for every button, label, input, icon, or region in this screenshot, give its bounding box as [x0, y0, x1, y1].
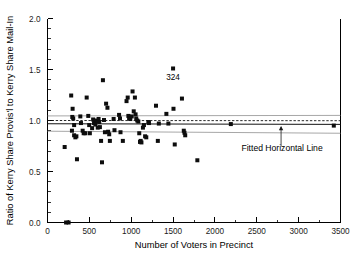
data-point	[70, 129, 74, 133]
data-point	[195, 158, 199, 162]
x-tick-label: 2000	[206, 227, 225, 236]
data-point	[88, 131, 92, 135]
data-point	[104, 102, 108, 106]
data-point	[101, 78, 105, 82]
data-point	[173, 142, 177, 146]
data-point	[108, 139, 112, 143]
x-tick-label: 1000	[122, 227, 141, 236]
data-point	[63, 145, 67, 149]
axes-group: 0.00.51.01.52.00500100015002000250030003…	[29, 15, 350, 236]
data-point	[98, 125, 102, 129]
data-point	[100, 160, 104, 164]
y-axis-title: Ratio of Kerry Share Provis'l to Kerry S…	[5, 16, 15, 225]
y-tick-label: 1.0	[29, 117, 41, 126]
data-point	[78, 114, 82, 118]
data-point	[136, 120, 140, 124]
data-point	[137, 131, 141, 135]
scatter-plot-figure: 0.00.51.01.52.00500100015002000250030003…	[0, 0, 360, 268]
data-point	[71, 107, 75, 111]
x-tick-label: 3000	[290, 227, 309, 236]
data-point	[126, 96, 130, 100]
data-point	[139, 140, 143, 144]
y-tick-label: 0.5	[29, 168, 41, 177]
data-point	[74, 134, 78, 138]
data-point	[105, 106, 109, 110]
data-point	[112, 117, 116, 121]
data-point	[102, 118, 106, 122]
chart-canvas: 0.00.51.01.52.00500100015002000250030003…	[0, 0, 360, 268]
data-point	[134, 112, 138, 116]
x-tick-label: 3500	[331, 227, 350, 236]
data-point	[90, 126, 94, 130]
data-point	[133, 96, 137, 100]
data-point	[107, 132, 111, 136]
callout-arrow-head	[279, 126, 283, 130]
x-tick-label: 500	[83, 227, 97, 236]
confidence-band-upper	[48, 115, 341, 116]
x-tick-label: 2500	[248, 227, 267, 236]
data-point	[130, 114, 134, 118]
data-point	[69, 94, 73, 98]
data-point	[142, 123, 146, 127]
y-tick-label: 0.0	[29, 219, 41, 228]
data-point	[171, 66, 175, 70]
data-point	[97, 120, 101, 124]
data-point	[171, 107, 175, 111]
data-point	[71, 116, 75, 120]
data-point	[154, 104, 158, 108]
data-point	[131, 89, 135, 93]
annotations-group: 324Fitted Horizontal Line	[166, 73, 323, 153]
data-point	[166, 122, 170, 126]
data-point	[118, 116, 122, 120]
fitted-line-callout-label: Fitted Horizontal Line	[241, 143, 322, 153]
data-point	[157, 122, 161, 126]
data-point	[112, 128, 116, 132]
data-point	[125, 99, 129, 103]
data-point	[164, 112, 168, 116]
data-point	[147, 121, 151, 125]
fitted-horizontal-line	[48, 124, 341, 125]
data-point	[83, 131, 87, 135]
data-point	[75, 157, 79, 161]
data-point	[79, 121, 83, 125]
data-point	[121, 139, 125, 143]
data-point	[117, 113, 121, 117]
x-tick-label: 0	[45, 227, 50, 236]
outlier-label: 324	[166, 73, 180, 82]
data-point	[86, 114, 90, 118]
data-point	[85, 96, 89, 100]
data-point	[332, 124, 336, 128]
data-point	[183, 133, 187, 137]
data-point	[118, 130, 122, 134]
data-point	[156, 139, 160, 143]
data-point	[144, 135, 148, 139]
data-point	[229, 122, 233, 126]
x-tick-label: 1500	[164, 227, 183, 236]
x-axis-title: Number of Voters in Precinct	[135, 240, 254, 250]
fitted-line-group	[48, 124, 341, 125]
data-point	[67, 221, 71, 225]
y-tick-label: 2.0	[29, 15, 41, 24]
data-point	[99, 139, 103, 143]
data-point	[180, 97, 184, 101]
data-point	[72, 123, 76, 127]
y-tick-label: 1.5	[29, 66, 41, 75]
